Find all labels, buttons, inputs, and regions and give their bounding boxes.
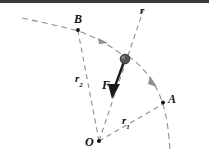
label-radius-r2-subscript: 2 — [79, 81, 83, 89]
arc-r2-arrowhead — [98, 38, 108, 44]
label-origin-o: O — [85, 136, 94, 148]
label-force-f: F — [102, 79, 110, 91]
particle-dot — [120, 54, 130, 64]
label-point-b: B — [74, 13, 82, 25]
label-point-a: A — [168, 93, 176, 105]
point-a-marker — [161, 101, 165, 105]
label-radial-line-r: r — [140, 5, 144, 16]
point-o-marker — [97, 139, 101, 143]
point-b-marker — [76, 28, 80, 32]
particle-highlight — [122, 56, 125, 59]
radial-line-r — [99, 11, 143, 141]
label-radius-r1: r1 — [122, 115, 130, 129]
label-radius-r2: r2 — [75, 73, 83, 87]
radius-line-r1 — [99, 104, 163, 141]
physics-diagram-figure: B A O r r1 r2 F — [0, 0, 209, 157]
label-radius-r1-subscript: 1 — [126, 123, 130, 131]
